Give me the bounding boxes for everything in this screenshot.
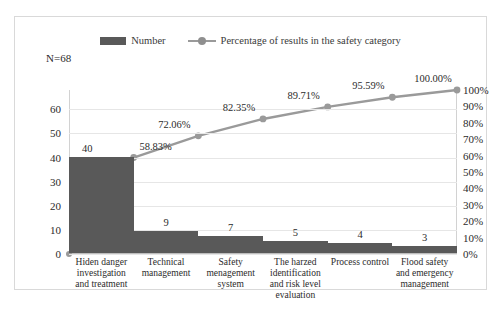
chart-frame: Number Percentage of results in the safe…	[14, 16, 487, 290]
y-axis-left-tick: 40	[23, 152, 61, 164]
line-marker-swatch-icon	[188, 36, 216, 45]
y-axis-right-tick: 20%	[463, 215, 499, 227]
chart-legend: Number Percentage of results in the safe…	[15, 35, 486, 46]
bar-value-label: 7	[228, 222, 233, 233]
y-axis-right-tick: 0%	[463, 248, 499, 260]
bar	[198, 236, 263, 253]
bar	[328, 243, 393, 253]
plot-area: 01020304050600%10%20%30%40%50%60%70%80%9…	[69, 90, 457, 254]
gridline	[69, 109, 457, 110]
x-axis-category-label: Safety menagement system	[198, 257, 263, 305]
bar	[263, 241, 328, 253]
y-axis-right-tick: 60%	[463, 150, 499, 162]
y-axis-right-tick: 90%	[463, 100, 499, 112]
cumulative-percentage-label: 58.83%	[139, 141, 171, 152]
cumulative-percentage-label: 72.06%	[158, 119, 190, 130]
y-axis-left-tick: 50	[23, 127, 61, 139]
legend-label-number: Number	[131, 35, 165, 46]
gridline	[69, 254, 457, 255]
bar-value-label: 40	[82, 143, 93, 154]
bar-value-label: 9	[163, 217, 168, 228]
legend-item-percentage: Percentage of results in the safety cate…	[188, 35, 401, 46]
y-axis-left-tick: 60	[23, 103, 61, 115]
bar-swatch-icon	[100, 37, 126, 45]
bar-value-label: 3	[422, 232, 427, 243]
legend-item-number: Number	[100, 35, 165, 46]
cumulative-percentage-label: 100.00%	[414, 73, 452, 84]
gridline	[69, 133, 457, 134]
line-data-point	[454, 87, 461, 94]
bar	[392, 246, 457, 253]
x-axis-category-label: Flood safety and emergency management	[392, 257, 457, 305]
y-axis-right-tick: 100%	[463, 84, 499, 96]
bar	[134, 231, 199, 253]
cumulative-percentage-label: 95.59%	[352, 80, 384, 91]
x-axis-category-label: Process control	[328, 257, 393, 305]
y-axis-right-tick: 80%	[463, 117, 499, 129]
x-axis-category-label: The harzed identification and risk level…	[263, 257, 328, 305]
line-data-point	[260, 116, 267, 123]
y-axis-left-tick: 0	[23, 248, 61, 260]
y-axis-right-tick: 50%	[463, 166, 499, 178]
y-axis-right-tick: 10%	[463, 232, 499, 244]
bar-value-label: 5	[293, 227, 298, 238]
sample-size-annotation: N=68	[46, 52, 71, 64]
legend-label-percentage: Percentage of results in the safety cate…	[221, 35, 401, 46]
y-axis-right-tick: 30%	[463, 199, 499, 211]
bar-value-label: 4	[357, 229, 362, 240]
cumulative-percentage-label: 89.71%	[287, 90, 319, 101]
x-axis-category-label: Hiden danger investigation and treatment	[69, 257, 134, 305]
cumulative-percentage-label: 82.35%	[223, 102, 255, 113]
line-data-point	[389, 94, 396, 101]
bar	[69, 157, 134, 253]
y-axis-right-tick: 70%	[463, 133, 499, 145]
y-axis-left-tick: 10	[23, 224, 61, 236]
y-axis-left-tick: 20	[23, 200, 61, 212]
x-axis-category-labels: Hiden danger investigation and treatment…	[69, 257, 457, 305]
x-axis-category-label: Technical management	[134, 257, 199, 305]
y-axis-right-tick: 40%	[463, 182, 499, 194]
y-axis-left-tick: 30	[23, 176, 61, 188]
